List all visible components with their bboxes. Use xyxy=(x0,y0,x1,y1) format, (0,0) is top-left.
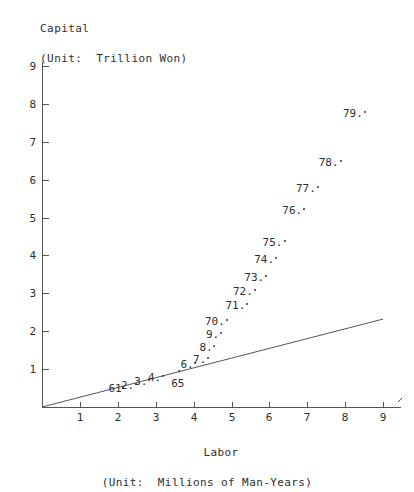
data-point-76 xyxy=(303,208,305,210)
data-point-label-75: 75. xyxy=(263,237,283,248)
x-tick-label-1: 1 xyxy=(72,412,88,423)
data-point-68 xyxy=(213,345,215,347)
data-point-label-64: 4. xyxy=(148,372,161,383)
y-tick-label-2: 2 xyxy=(20,326,36,337)
x-tick-label-2: 2 xyxy=(110,412,126,423)
x-tick-label-3: 3 xyxy=(148,412,164,423)
y-tick-label-5: 5 xyxy=(20,213,36,224)
y-tick-8 xyxy=(43,104,49,105)
data-point-label-67: 7. xyxy=(193,354,206,365)
y-tick-7 xyxy=(43,142,49,143)
data-point-label-73: 73. xyxy=(244,272,264,283)
data-point-67 xyxy=(207,357,209,359)
y-tick-5 xyxy=(43,218,49,219)
data-point-label-68: 8. xyxy=(199,342,212,353)
data-point-label-62: 2. xyxy=(121,380,134,391)
y-tick-9 xyxy=(43,66,49,67)
data-point-label-63: 3. xyxy=(134,376,147,387)
data-point-label-74: 74. xyxy=(254,254,274,265)
x-tick-label-5: 5 xyxy=(224,412,240,423)
data-point-label-79: 79. xyxy=(343,108,363,119)
x-tick-4 xyxy=(194,402,195,408)
x-tick-2 xyxy=(118,402,119,408)
data-point-71 xyxy=(246,303,248,305)
data-point-72 xyxy=(254,289,256,291)
x-tick-label-8: 8 xyxy=(337,412,353,423)
data-point-label-65: 65 xyxy=(171,378,184,389)
x-tick-label-6: 6 xyxy=(261,412,277,423)
data-point-77 xyxy=(317,186,319,188)
data-point-74 xyxy=(275,257,277,259)
data-point-label-76: 76. xyxy=(282,205,302,216)
y-axis-line xyxy=(42,62,43,408)
y-tick-2 xyxy=(43,331,49,332)
data-point-79 xyxy=(364,111,366,113)
y-tick-1 xyxy=(43,369,49,370)
data-point-78 xyxy=(340,160,342,162)
x-tick-7 xyxy=(307,402,308,408)
y-tick-label-8: 8 xyxy=(20,99,36,110)
data-point-64 xyxy=(162,375,164,377)
x-axis-title-text: Labor xyxy=(203,446,238,459)
x-tick-9 xyxy=(383,402,384,408)
data-point-label-70: 70. xyxy=(205,316,225,327)
y-tick-label-1: 1 xyxy=(20,364,36,375)
y-tick-label-4: 4 xyxy=(20,250,36,261)
y-tick-label-7: 7 xyxy=(20,137,36,148)
x-tick-label-4: 4 xyxy=(186,412,202,423)
y-tick-label-9: 9 xyxy=(20,61,36,72)
y-tick-3 xyxy=(43,293,49,294)
x-tick-8 xyxy=(345,402,346,408)
y-tick-6 xyxy=(43,180,49,181)
data-point-75 xyxy=(284,240,286,242)
data-point-73 xyxy=(265,275,267,277)
data-point-label-69: 9. xyxy=(206,329,219,340)
x-tick-3 xyxy=(156,402,157,408)
data-point-label-61: 61 xyxy=(108,383,121,394)
data-point-label-71: 71. xyxy=(225,300,245,311)
data-point-69 xyxy=(220,332,222,334)
x-tick-5 xyxy=(232,402,233,408)
x-tick-1 xyxy=(80,402,81,408)
x-tick-label-9: 9 xyxy=(375,412,391,423)
x-tick-6 xyxy=(269,402,270,408)
x-axis-line xyxy=(42,407,401,408)
y-tick-4 xyxy=(43,255,49,256)
data-point-label-72: 72. xyxy=(233,286,253,297)
x-axis-end-tick xyxy=(398,398,402,402)
data-point-label-77: 77. xyxy=(296,183,316,194)
y-tick-label-3: 3 xyxy=(20,288,36,299)
x-axis-title: Labor (Unit: Millions of Man-Years) xyxy=(0,430,414,492)
data-point-label-78: 78. xyxy=(319,157,339,168)
data-point-70 xyxy=(226,319,228,321)
x-tick-label-7: 7 xyxy=(299,412,315,423)
x-axis-unit-text: (Unit: Millions of Man-Years) xyxy=(0,475,414,490)
y-tick-label-6: 6 xyxy=(20,175,36,186)
data-point-label-66: 6. xyxy=(180,359,193,370)
